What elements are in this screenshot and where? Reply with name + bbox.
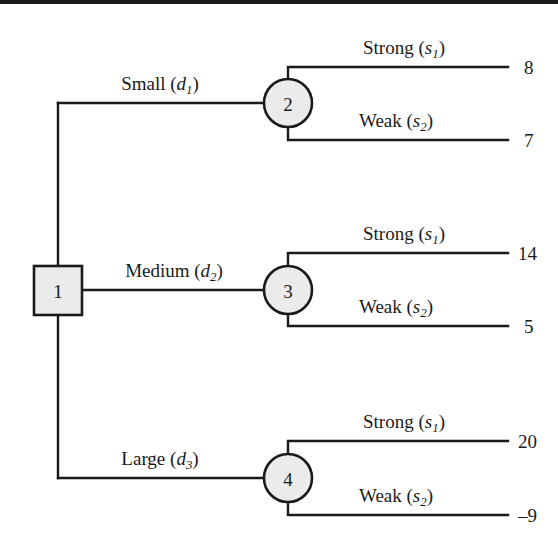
outcome-label-medium-strong: Strong (s1)	[363, 224, 445, 247]
chance-node-2-label: 2	[283, 94, 293, 115]
decision-node-1-label: 1	[53, 281, 63, 302]
outcome-label-small-weak-symbol: s2	[413, 110, 427, 131]
branch-label-large: Large (d3)	[121, 449, 198, 472]
outcome-line-small-strong	[288, 67, 508, 103]
outcome-label-large-weak-text: Weak	[359, 485, 402, 506]
chance-node-3-label: 3	[283, 281, 293, 302]
branch-label-large-text: Large	[121, 448, 165, 469]
branch-label-medium-symbol: d2	[201, 260, 217, 281]
outcome-label-large-strong: Strong (s1)	[363, 412, 445, 435]
outcome-label-large-weak-symbol: s2	[413, 485, 427, 506]
branch-label-medium-text: Medium	[125, 260, 189, 281]
outcome-line-medium-strong	[288, 253, 508, 290]
branch-label-small-symbol: d1	[177, 73, 193, 94]
payoff-small-strong: 8	[524, 58, 534, 77]
outcome-label-large-strong-symbol: s1	[425, 411, 439, 432]
payoff-medium-strong: 14	[518, 244, 537, 263]
outcome-label-small-strong-text: Strong	[363, 37, 414, 58]
outcome-label-large-strong-text: Strong	[363, 411, 414, 432]
branch-label-medium: Medium (d2)	[125, 261, 223, 284]
branch-label-small: Small (d1)	[121, 74, 199, 97]
payoff-medium-weak: 5	[524, 317, 534, 336]
decision-tree-figure: 1 2 3 4 Small (d1) Medium (d2) Large (d3…	[0, 0, 558, 551]
payoff-small-weak: 7	[524, 131, 534, 150]
outcome-label-medium-weak-symbol: s2	[413, 296, 427, 317]
outcome-label-medium-strong-symbol: s1	[425, 223, 439, 244]
decision-tree-graphic: 1 2 3 4	[0, 0, 558, 551]
outcome-label-small-weak: Weak (s2)	[359, 111, 433, 134]
outcome-label-large-weak: Weak (s2)	[359, 486, 433, 509]
outcome-label-medium-weak-text: Weak	[359, 296, 402, 317]
outcome-label-small-weak-text: Weak	[359, 110, 402, 131]
outcome-label-small-strong-symbol: s1	[425, 37, 439, 58]
outcome-label-small-strong: Strong (s1)	[363, 38, 445, 61]
payoff-large-strong: 20	[518, 432, 537, 451]
outcome-label-medium-weak: Weak (s2)	[359, 297, 433, 320]
outcome-line-large-strong	[288, 441, 508, 478]
chance-node-4-label: 4	[283, 469, 293, 490]
branch-label-small-text: Small	[121, 73, 165, 94]
outcome-label-medium-strong-text: Strong	[363, 223, 414, 244]
payoff-large-weak: –9	[518, 506, 537, 525]
branch-label-large-symbol: d3	[176, 448, 192, 469]
